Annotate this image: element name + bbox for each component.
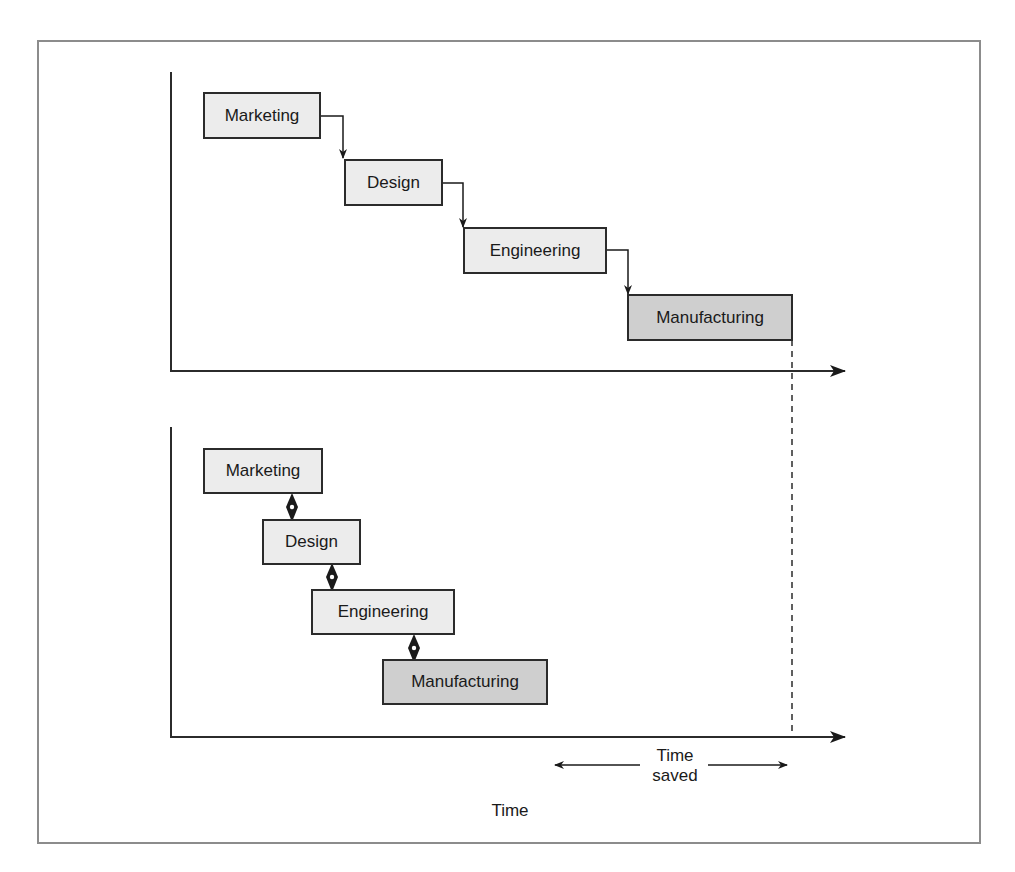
sequential-stage-manufacturing: Manufacturing: [627, 294, 793, 341]
time-saved-line1: Time: [640, 746, 710, 766]
diamond-connector-icon: [286, 493, 298, 522]
concurrent-stage-design: Design: [262, 519, 361, 565]
diagram-lines: [0, 0, 1015, 872]
concurrent-stage-manufacturing: Manufacturing: [382, 659, 548, 705]
concurrent-stage-marketing: Marketing: [203, 448, 323, 494]
time-saved-label: Time saved: [640, 746, 710, 786]
sequential-stage-marketing: Marketing: [203, 92, 321, 139]
time-axis-label: Time: [480, 801, 540, 821]
sequential-stage-engineering: Engineering: [463, 227, 607, 274]
sequential-stage-design: Design: [344, 159, 443, 206]
diamond-connector-icon: [326, 563, 338, 592]
concurrent-stage-engineering: Engineering: [311, 589, 455, 635]
time-saved-line2: saved: [640, 766, 710, 786]
